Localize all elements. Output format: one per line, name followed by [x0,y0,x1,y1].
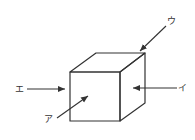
arrow-a [57,96,88,118]
cube-front-face [70,72,120,121]
label-u: ウ [167,16,176,26]
cube-drawing [0,0,195,140]
label-a: ア [44,114,53,124]
cube-diagram: ア イ ウ エ [0,0,195,140]
cube-side-face [120,53,145,121]
label-e: エ [15,84,24,94]
cube-top-face [70,53,145,72]
label-i: イ [178,83,187,93]
arrow-u [140,26,166,51]
